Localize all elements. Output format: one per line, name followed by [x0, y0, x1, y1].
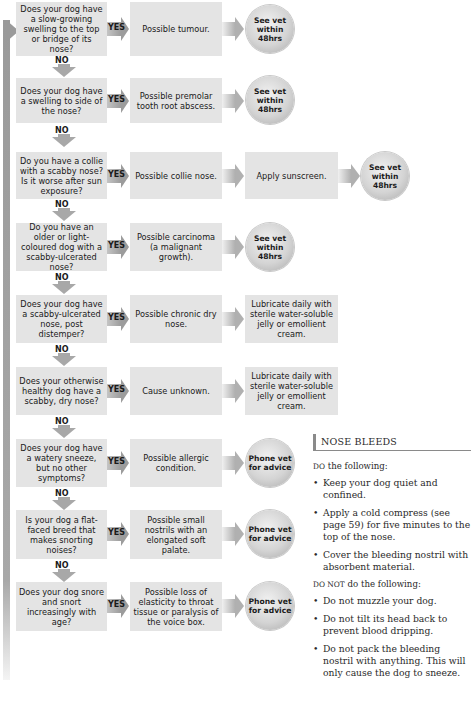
action-box: Lubricate daily with sterile water-solub… [245, 367, 338, 415]
yes-label: YES [108, 241, 125, 250]
nose-bleeds-panel: NOSE BLEEDS DO the following: Keep your … [313, 434, 471, 685]
arrow-right-icon [222, 594, 244, 618]
yes-arrow-icon: YES [107, 522, 129, 546]
no-arrow-icon: NO [52, 273, 76, 295]
result-box: Possible small nostrils with an elongate… [130, 510, 222, 559]
yes-arrow-icon: YES [107, 451, 129, 475]
dont-prefix: DO NOT [313, 580, 345, 589]
yes-arrow-icon: YES [107, 17, 129, 41]
do-suffix: the following: [325, 461, 388, 471]
yes-arrow-icon: YES [107, 164, 129, 188]
no-arrow-icon: NO [52, 56, 76, 78]
result-box: Possible chronic dry nose. [130, 295, 222, 343]
result-box: Possible tumour. [130, 2, 222, 56]
no-arrow-icon: NO [52, 489, 76, 511]
dont-item: Do not tilt its head back to prevent blo… [313, 613, 471, 637]
yes-arrow-icon: YES [107, 594, 129, 618]
do-heading: DO the following: [313, 461, 471, 471]
question-box: Do you have an older or light-coloured d… [16, 223, 107, 271]
dont-suffix: do the following: [345, 579, 421, 589]
result-box: Possible carcinoma (a malignant growth). [130, 223, 222, 271]
question-box: Does your dog have a scabby-ulcerated no… [16, 295, 107, 343]
arrow-right-icon [338, 164, 360, 188]
no-arrow-icon: NO [52, 561, 76, 583]
arrow-right-icon [222, 235, 244, 259]
outcome-badge: See vet within 48hrs [361, 152, 409, 200]
result-box: Possible loss of elasticity to throat ti… [130, 582, 222, 631]
outcome-badge: See vet within 48hrs [246, 5, 294, 53]
do-item: Apply a cold compress (see page 59) for … [313, 507, 471, 543]
arrow-right-icon [222, 451, 244, 475]
yes-label: YES [108, 528, 125, 537]
flow-entry-bar [3, 20, 10, 680]
yes-label: YES [108, 170, 125, 179]
dont-list: Do not muzzle your dog. Do not tilt its … [313, 595, 471, 679]
yes-arrow-icon: YES [107, 307, 129, 331]
yes-label: YES [108, 457, 125, 466]
outcome-badge: See vet within 48hrs [246, 76, 294, 124]
result-box: Possible collie nose. [130, 152, 222, 199]
no-arrow-icon: NO [52, 126, 76, 148]
dont-item: Do not pack the bleeding nostril with an… [313, 643, 471, 679]
arrow-right-icon [222, 164, 244, 188]
question-box: Does your dog have a slow-growing swelli… [16, 2, 107, 56]
result-box: Cause unknown. [130, 367, 222, 415]
yes-arrow-icon: YES [107, 89, 129, 113]
arrow-right-icon [222, 522, 244, 546]
action-box: Lubricate daily with sterile water-solub… [245, 295, 338, 343]
nose-bleeds-title: NOSE BLEEDS [313, 434, 471, 451]
dont-heading: DO NOT do the following: [313, 579, 471, 589]
yes-arrow-icon: YES [107, 235, 129, 259]
yes-label: YES [108, 23, 125, 32]
dont-item: Do not muzzle your dog. [313, 595, 471, 607]
question-box: Does your otherwise healthy dog have a s… [16, 367, 107, 415]
do-item: Cover the bleeding nostril with absorben… [313, 549, 471, 573]
yes-label: YES [108, 385, 125, 394]
do-prefix: DO [313, 462, 325, 471]
do-list: Keep your dog quiet and confined. Apply … [313, 477, 471, 573]
outcome-badge: Phone vet for advice [246, 582, 294, 630]
question-box: Does your dog snore and snort increasing… [16, 582, 107, 631]
do-item: Keep your dog quiet and confined. [313, 477, 471, 501]
arrow-right-icon [222, 379, 244, 403]
question-box: Is your dog a flat-faced breed that make… [16, 510, 107, 559]
question-box: Do you have a collie with a scabby nose?… [16, 152, 107, 199]
question-box: Does your dog have a watery sneeze, but … [16, 439, 107, 487]
outcome-badge: Phone vet for advice [246, 439, 294, 487]
yes-label: YES [108, 313, 125, 322]
arrow-right-icon [222, 17, 244, 41]
no-arrow-icon: NO [52, 200, 76, 222]
no-arrow-icon: NO [52, 345, 76, 367]
outcome-badge: See vet within 48hrs [246, 223, 294, 271]
yes-label: YES [108, 95, 125, 104]
yes-label: YES [108, 600, 125, 609]
outcome-badge: Phone vet for advice [246, 510, 294, 558]
result-box: Possible allergic condition. [130, 439, 222, 487]
arrow-right-icon [222, 89, 244, 113]
yes-arrow-icon: YES [107, 379, 129, 403]
no-arrow-icon: NO [52, 417, 76, 439]
action-box: Apply sunscreen. [245, 152, 338, 199]
arrow-right-icon [222, 307, 244, 331]
result-box: Possible premolar tooth root abscess. [130, 78, 222, 123]
question-box: Does your dog have a swelling to side of… [16, 78, 107, 123]
